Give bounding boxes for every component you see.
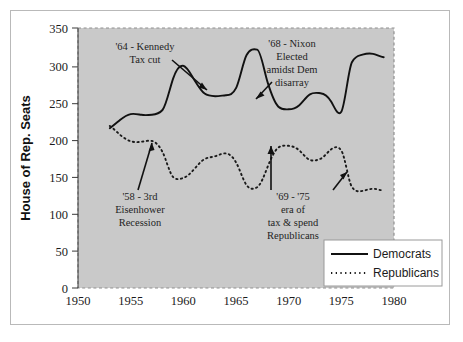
y-axis-ticks (72, 28, 78, 288)
annotation-nixon-line-1: '68 - Nixon (268, 38, 316, 49)
x-tick-label-1950: 1950 (66, 294, 91, 308)
y-tick-label-150: 150 (49, 171, 68, 185)
x-tick-label-1955: 1955 (118, 294, 143, 308)
x-tick-label-1970: 1970 (276, 294, 301, 308)
x-tick-label-1975: 1975 (329, 294, 354, 308)
annotation-taxspend-line-4: Republicans (267, 230, 319, 241)
annotation-kennedy-line-1: '64 - Kennedy (115, 41, 175, 52)
annotation-nixon-line-4: disarray (275, 77, 310, 88)
line-chart: 0 50 100 150 200 250 300 350 1950 1955 1… (0, 0, 463, 342)
x-tick-label-1960: 1960 (171, 294, 196, 308)
annotation-eisenhower-line-3: Recession (119, 217, 162, 228)
annotation-eisenhower-line-2: Eisenhower (115, 204, 165, 215)
legend: Democrats Republicans (324, 240, 442, 286)
annotation-taxspend-line-1: '69 - '75 (276, 191, 310, 202)
annotation-taxspend-line-3: tax & spend (268, 217, 319, 228)
y-tick-label-100: 100 (49, 208, 68, 222)
x-tick-label-1980: 1980 (382, 294, 407, 308)
y-tick-label-200: 200 (49, 134, 68, 148)
x-tick-label-1965: 1965 (224, 294, 249, 308)
y-tick-label-50: 50 (56, 245, 69, 259)
y-axis-title: House of Rep. Seats (18, 95, 33, 221)
legend-label-democrats: Democrats (373, 247, 431, 261)
annotation-nixon-line-3: amidst Dem (266, 64, 317, 75)
y-tick-label-300: 300 (49, 60, 68, 74)
y-tick-label-350: 350 (49, 22, 68, 36)
annotation-nixon-line-2: Elected (276, 51, 308, 62)
annotation-kennedy-line-2: Tax cut (129, 54, 160, 65)
annotation-eisenhower-line-1: '58 - 3rd (122, 191, 158, 202)
y-tick-label-250: 250 (49, 97, 68, 111)
legend-label-republicans: Republicans (373, 266, 439, 280)
annotation-taxspend-line-2: era of (281, 204, 306, 215)
